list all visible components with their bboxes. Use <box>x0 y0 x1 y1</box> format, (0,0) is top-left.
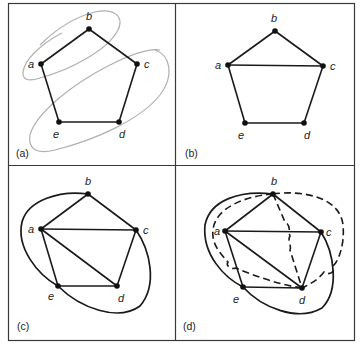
vertex-label-a: a <box>215 59 221 71</box>
vertex-label-d: d <box>304 129 311 141</box>
vertex-label-c: c <box>144 58 150 70</box>
panel-label-b: (b) <box>185 147 198 159</box>
vertex-label-c: c <box>326 226 332 238</box>
vertex-c <box>134 61 140 67</box>
vertex-c <box>133 227 139 233</box>
vertex-label-d: d <box>118 292 125 304</box>
vertex-a <box>38 226 44 232</box>
graph-b <box>228 31 323 123</box>
vertex-b <box>85 191 91 197</box>
curved-edge-c-e <box>243 232 333 314</box>
vertex-label-b: b <box>85 175 91 187</box>
vertex-label-b: b <box>271 12 277 24</box>
vertex-label-e: e <box>233 293 239 305</box>
panel-label-a: (a) <box>16 147 29 159</box>
vertex-a <box>222 228 228 234</box>
vertex-d <box>299 285 305 291</box>
pentagon-a <box>41 29 137 122</box>
vertex-b <box>270 191 276 197</box>
graph-d <box>225 194 321 288</box>
vertex-a <box>225 62 231 68</box>
vertex-d <box>301 120 307 126</box>
vertex-label-d: d <box>299 294 306 306</box>
vertex-b <box>86 26 92 32</box>
panel-a: a b c d e (a) <box>16 10 169 159</box>
panel-b: a b c d e (b) <box>185 12 336 159</box>
vertex-a <box>38 61 44 67</box>
dashed-edge-b-d-left <box>213 194 302 288</box>
vertex-label-c: c <box>143 224 149 236</box>
graph-figure: a b c d e (a) a b c d e (b) <box>0 0 361 349</box>
vertex-c <box>318 229 324 235</box>
vertex-e <box>242 120 248 126</box>
panel-label-d: (d) <box>183 320 196 332</box>
panel-d: a b c d e (d) <box>183 175 343 332</box>
vertex-label-b: b <box>86 10 92 22</box>
vertex-label-b: b <box>271 175 277 187</box>
gray-loop-ab <box>23 11 120 80</box>
vertex-label-a: a <box>214 225 220 237</box>
vertex-e <box>240 284 246 290</box>
vertex-d <box>114 283 120 289</box>
dashed-edge-b-d-inner <box>273 194 302 288</box>
vertex-label-e: e <box>53 128 59 140</box>
vertex-label-a: a <box>28 58 34 70</box>
vertex-label-e: e <box>238 129 244 141</box>
graph-c <box>41 194 136 286</box>
curved-edge-c-e <box>58 230 150 313</box>
vertex-label-e: e <box>48 290 54 302</box>
panel-label-c: (c) <box>17 320 29 332</box>
vertex-e <box>55 283 61 289</box>
vertex-e <box>56 119 62 125</box>
vertex-d <box>116 119 122 125</box>
vertex-c <box>320 63 326 69</box>
vertex-b <box>272 28 278 34</box>
panel-c: a b c d e (c) <box>17 175 150 332</box>
vertex-label-c: c <box>330 60 336 72</box>
vertex-label-d: d <box>119 128 126 140</box>
vertex-label-a: a <box>28 223 34 235</box>
